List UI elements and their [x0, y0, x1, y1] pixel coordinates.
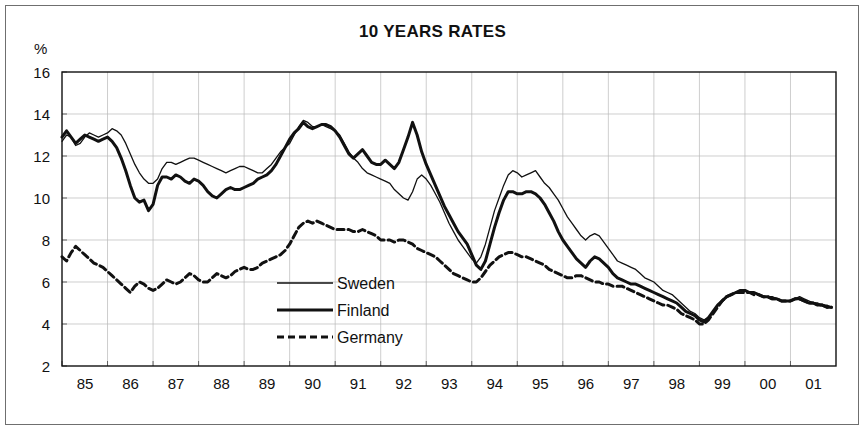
x-axis-tick-labels: 8586878889909192939495969798990001	[77, 375, 822, 392]
x-tick-label: 93	[441, 375, 458, 392]
x-tick-label: 98	[669, 375, 686, 392]
x-tick-label: 89	[259, 375, 276, 392]
x-tick-label: 94	[486, 375, 503, 392]
legend-label-sweden: Sweden	[337, 275, 395, 292]
x-tick-label: 95	[532, 375, 549, 392]
series-line-finland	[62, 122, 831, 322]
y-tick-label: 14	[33, 106, 50, 123]
x-tick-label: 97	[623, 375, 640, 392]
axis-frame	[62, 72, 836, 366]
x-tick-label: 85	[77, 375, 94, 392]
y-tick-label: 8	[42, 232, 50, 249]
data-series-layer	[62, 120, 831, 324]
chart-legend: SwedenFinlandGermany	[277, 275, 403, 346]
x-tick-label: 87	[168, 375, 185, 392]
y-axis-tick-labels: 246810121416	[33, 64, 50, 375]
series-line-sweden	[62, 120, 831, 319]
x-tick-label: 00	[760, 375, 777, 392]
x-tick-label: 96	[577, 375, 594, 392]
y-tick-label: 2	[42, 358, 50, 375]
y-tick-label: 10	[33, 190, 50, 207]
x-tick-label: 91	[350, 375, 367, 392]
x-tick-label: 92	[395, 375, 412, 392]
y-tick-label: 16	[33, 64, 50, 81]
plot-area: 246810121416 858687888990919293949596979…	[0, 0, 865, 437]
legend-label-germany: Germany	[337, 329, 403, 346]
x-tick-label: 99	[714, 375, 731, 392]
x-tick-label: 88	[213, 375, 230, 392]
gridlines	[62, 72, 836, 366]
chart-figure: 10 YEARS RATES % 246810121416 8586878889…	[0, 0, 865, 437]
series-line-germany	[62, 221, 831, 324]
y-tick-label: 6	[42, 274, 50, 291]
legend-label-finland: Finland	[337, 302, 389, 319]
y-tick-label: 4	[42, 316, 50, 333]
y-tick-label: 12	[33, 148, 50, 165]
x-tick-label: 90	[304, 375, 321, 392]
x-tick-label: 01	[805, 375, 822, 392]
x-tick-label: 86	[122, 375, 139, 392]
